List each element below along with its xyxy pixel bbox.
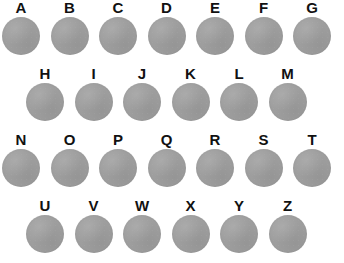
circle-cell-j[interactable]: J (121, 66, 163, 130)
circle-disc[interactable] (51, 17, 89, 55)
circle-cell-f[interactable]: F (243, 0, 285, 64)
circle-label: Z (267, 198, 309, 215)
circle-label: B (49, 0, 91, 17)
circle-cell-l[interactable]: L (218, 66, 260, 130)
circle-cell-c[interactable]: C (97, 0, 139, 64)
circle-label: S (243, 132, 285, 149)
circle-label: E (194, 0, 236, 17)
circle-cell-a[interactable]: A (0, 0, 42, 64)
circle-grid: ABCDEFGHIJKLMNOPQRSTUVWXYZ (0, 0, 344, 263)
circle-cell-v[interactable]: V (73, 198, 115, 262)
circle-label: D (146, 0, 188, 17)
circle-label: M (267, 66, 309, 83)
circle-label: H (24, 66, 66, 83)
circle-cell-b[interactable]: B (49, 0, 91, 64)
circle-cell-w[interactable]: W (121, 198, 163, 262)
circle-label: W (121, 198, 163, 215)
circle-disc[interactable] (75, 83, 113, 121)
circle-disc[interactable] (196, 149, 234, 187)
circle-cell-t[interactable]: T (291, 132, 333, 196)
circle-disc[interactable] (2, 149, 40, 187)
circle-label: X (170, 198, 212, 215)
circle-label: G (291, 0, 333, 17)
circle-label: U (24, 198, 66, 215)
circle-disc[interactable] (148, 149, 186, 187)
circle-label: N (0, 132, 42, 149)
circle-cell-z[interactable]: Z (267, 198, 309, 262)
circle-disc[interactable] (51, 149, 89, 187)
circle-label: O (49, 132, 91, 149)
circle-disc[interactable] (220, 215, 258, 253)
circle-disc[interactable] (220, 83, 258, 121)
circle-disc[interactable] (293, 149, 331, 187)
circle-disc[interactable] (123, 83, 161, 121)
circle-label: I (73, 66, 115, 83)
circle-label: K (170, 66, 212, 83)
circle-cell-q[interactable]: Q (146, 132, 188, 196)
circle-disc[interactable] (172, 215, 210, 253)
circle-label: P (97, 132, 139, 149)
circle-label: J (121, 66, 163, 83)
circle-disc[interactable] (269, 215, 307, 253)
circle-cell-u[interactable]: U (24, 198, 66, 262)
circle-cell-m[interactable]: M (267, 66, 309, 130)
circle-disc[interactable] (245, 149, 283, 187)
circle-disc[interactable] (245, 17, 283, 55)
circle-disc[interactable] (2, 17, 40, 55)
circle-cell-g[interactable]: G (291, 0, 333, 64)
circle-cell-i[interactable]: I (73, 66, 115, 130)
circle-cell-x[interactable]: X (170, 198, 212, 262)
circle-cell-n[interactable]: N (0, 132, 42, 196)
circle-cell-p[interactable]: P (97, 132, 139, 196)
circle-cell-d[interactable]: D (146, 0, 188, 64)
circle-cell-o[interactable]: O (49, 132, 91, 196)
circle-label: C (97, 0, 139, 17)
circle-label: Q (146, 132, 188, 149)
circle-label: V (73, 198, 115, 215)
circle-disc[interactable] (26, 83, 64, 121)
circle-cell-r[interactable]: R (194, 132, 236, 196)
circle-label: T (291, 132, 333, 149)
circle-label: R (194, 132, 236, 149)
circle-cell-h[interactable]: H (24, 66, 66, 130)
circle-disc[interactable] (99, 17, 137, 55)
circle-disc[interactable] (148, 17, 186, 55)
circle-disc[interactable] (75, 215, 113, 253)
circle-label: Y (218, 198, 260, 215)
circle-cell-s[interactable]: S (243, 132, 285, 196)
circle-disc[interactable] (26, 215, 64, 253)
circle-disc[interactable] (196, 17, 234, 55)
circle-cell-k[interactable]: K (170, 66, 212, 130)
circle-cell-e[interactable]: E (194, 0, 236, 64)
circle-cell-y[interactable]: Y (218, 198, 260, 262)
circle-label: F (243, 0, 285, 17)
circle-disc[interactable] (123, 215, 161, 253)
circle-disc[interactable] (99, 149, 137, 187)
circle-label: L (218, 66, 260, 83)
circle-label: A (0, 0, 42, 17)
circle-disc[interactable] (293, 17, 331, 55)
circle-disc[interactable] (172, 83, 210, 121)
circle-disc[interactable] (269, 83, 307, 121)
